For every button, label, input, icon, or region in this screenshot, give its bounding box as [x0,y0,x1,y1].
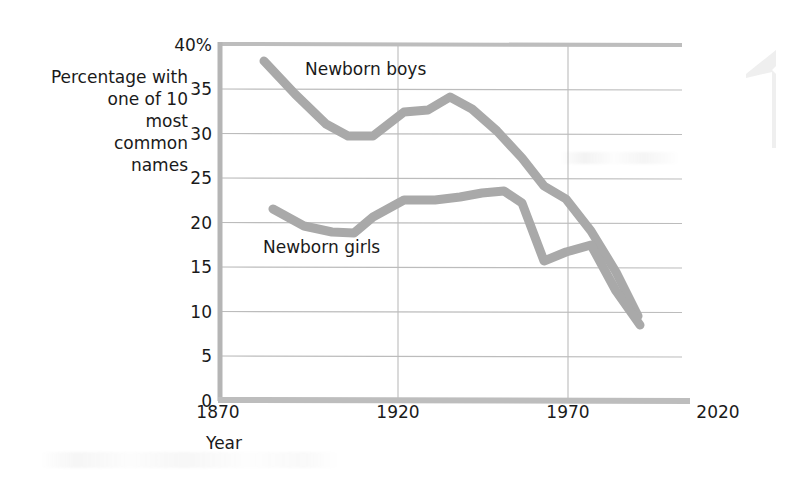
chart-figure: Percentage with one of 10 most common na… [0,0,800,483]
vertical-gridlines [398,44,568,400]
scan-smudge [560,152,680,164]
x-tick-label: 1970 [540,404,596,421]
x-axis-title-wrap: Year [0,433,800,453]
x-tick-label: 2020 [690,404,746,421]
scan-smudge-bottom [40,452,340,468]
x-tick-label: 1870 [190,404,246,421]
plot-top-border [218,44,682,45]
x-axis-spine [218,400,690,401]
series-annotation-newborn-boys: Newborn boys [305,61,426,78]
series-line-newborn-boys [264,61,638,316]
series-annotation-newborn-girls: Newborn girls [263,239,380,256]
x-axis-title: Year [206,433,242,453]
series-line-newborn-girls [273,191,640,325]
x-tick-label: 1920 [370,404,426,421]
scan-artifact [742,44,796,150]
